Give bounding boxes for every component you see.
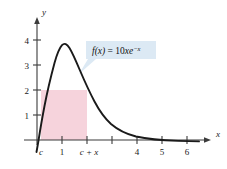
function-plot-figure: 1 2 3 4 c 1 c + x 4 5 6 y x f(x) = 10xe−… [0,0,227,169]
x-tick-label-4: 4 [135,147,140,157]
y-axis-label: y [41,7,46,17]
y-tick-label-3: 3 [25,61,30,71]
formula-equals: = 10 [105,46,125,56]
x-tick-label-6: 6 [185,147,190,157]
y-tick-label-1: 1 [25,111,30,121]
formula-arg: (x) [95,46,106,57]
y-axis-arrow [34,17,40,24]
x-axis-arrow [204,137,211,143]
shaded-rectangle [41,90,87,140]
y-tick-label-2: 2 [25,86,30,96]
x-tick-label-c-plus-x: c + x [80,147,99,157]
x-tick-label-5: 5 [160,147,165,157]
x-tick-label-c: c [39,147,43,157]
y-tick-label-4: 4 [25,36,30,46]
x-axis-label: x [215,129,220,139]
formula-base: xe [124,46,133,56]
x-tick-label-1: 1 [60,147,65,157]
formula-exponent: −x [133,45,140,52]
